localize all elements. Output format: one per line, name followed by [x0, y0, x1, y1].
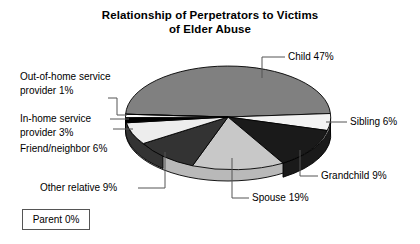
legend-label-parent: Parent 0% [33, 214, 80, 225]
callout-label-friend-neighbor: Friend/neighbor 6% [20, 142, 107, 156]
callout-label-sibling: Sibling 6% [350, 115, 397, 129]
callout-label-child: Child 47% [288, 50, 334, 64]
leader-line-out-of-home [108, 98, 127, 115]
in-home-line-2: provider 3% [20, 126, 91, 140]
callout-label-spouse: Spouse 19% [252, 191, 309, 205]
pie-slice-child[interactable] [126, 66, 331, 117]
out-of-home-line-1: Out-of-home service [20, 70, 111, 84]
callout-label-in-home-service-provider: In-home service provider 3% [20, 112, 91, 139]
callout-label-out-of-home-service-provider: Out-of-home service provider 1% [20, 70, 111, 97]
legend-box-parent[interactable]: Parent 0% [22, 209, 90, 230]
in-home-line-1: In-home service [20, 112, 91, 126]
callout-label-other-relative: Other relative 9% [40, 181, 117, 195]
callout-label-grandchild: Grandchild 9% [321, 169, 387, 183]
chart-canvas: Relationship of Perpetrators to Victims … [0, 0, 420, 244]
out-of-home-line-2: provider 1% [20, 84, 111, 98]
